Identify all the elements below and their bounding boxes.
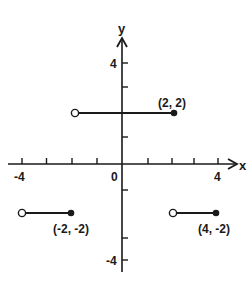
y-axis-label: y (118, 21, 126, 36)
closed-endpoint (68, 210, 75, 217)
point-label-2-2: (2, 2) (158, 96, 186, 110)
y-tick-label-4: 4 (110, 57, 117, 71)
point-label-4-neg2: (4, -2) (198, 222, 230, 236)
x-ticks (22, 158, 218, 164)
y-axis (117, 38, 128, 272)
segment-lower-left (18, 209, 74, 216)
segment-lower-right (169, 209, 219, 216)
open-endpoint (71, 109, 78, 116)
segment-upper (71, 109, 177, 116)
y-ticks (122, 63, 128, 260)
open-endpoint (169, 209, 176, 216)
x-tick-label-4: 4 (214, 170, 221, 184)
closed-endpoint (171, 110, 178, 117)
point-label-neg2-neg2: (-2, -2) (53, 222, 89, 236)
closed-endpoint (213, 210, 220, 217)
x-tick-label-neg4: -4 (14, 170, 25, 184)
origin-label: 0 (111, 170, 118, 184)
x-axis-label: x (239, 158, 247, 173)
step-function-graph: x y 0 -4 4 4 -4 (2, 2) (-2, -2) (4, -2) (0, 0, 251, 291)
open-endpoint (18, 209, 25, 216)
y-tick-label-neg4: -4 (106, 254, 117, 268)
